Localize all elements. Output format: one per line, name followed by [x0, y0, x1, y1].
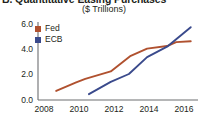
y-tick-label-0: 6.0: [11, 19, 33, 29]
x-tick-label-2: 2012: [97, 104, 131, 114]
chart-legend: Fed ECB: [35, 24, 62, 46]
y-tick-label-1: 4.0: [11, 44, 33, 54]
x-tick-label-1: 2010: [62, 104, 96, 114]
series-layer: [56, 27, 191, 94]
y-tick-label-2: 2.0: [11, 69, 33, 79]
x-tick-label-0: 2008: [27, 104, 61, 114]
series-line-fed: [56, 41, 191, 91]
legend-item-fed: Fed: [35, 24, 62, 33]
legend-label-fed: Fed: [45, 24, 60, 33]
x-tick-label-4: 2016: [167, 104, 201, 114]
legend-item-ecb: ECB: [35, 35, 62, 44]
series-line-ecb: [89, 27, 191, 94]
x-tick-label-3: 2014: [132, 104, 166, 114]
legend-swatch-fed: [35, 26, 41, 32]
chart-figure: B. Quantitative Easing Purchases ($ Tril…: [0, 0, 208, 128]
legend-swatch-ecb: [35, 37, 41, 43]
legend-label-ecb: ECB: [45, 35, 62, 44]
